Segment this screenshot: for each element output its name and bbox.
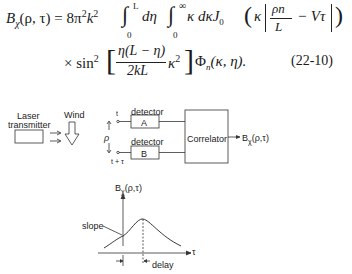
- wind-arrow-icon: [65, 122, 79, 145]
- correlation-curve: [104, 219, 181, 248]
- detector-a-box: [131, 115, 159, 128]
- detector-b-box: [131, 146, 159, 159]
- diagram-graphics: [0, 0, 352, 274]
- laser-transmitter-box: [15, 130, 43, 143]
- detector-b-input: [117, 151, 119, 153]
- detector-a-input: [117, 120, 119, 122]
- slope-leader: [103, 226, 122, 235]
- correlator-box: [185, 110, 228, 163]
